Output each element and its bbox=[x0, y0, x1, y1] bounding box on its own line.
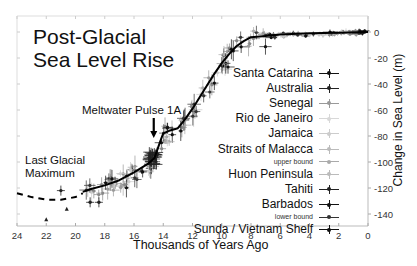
svg-text:22: 22 bbox=[41, 230, 52, 241]
y-axis-label: Change in Sea Level (m) bbox=[391, 54, 405, 187]
legend-marker-icon bbox=[317, 144, 341, 154]
svg-text:20: 20 bbox=[70, 230, 81, 241]
svg-text:0: 0 bbox=[374, 27, 379, 38]
legend-item: Tahiti bbox=[194, 181, 341, 196]
legend-item: Senegal bbox=[194, 95, 341, 110]
legend-marker-icon bbox=[317, 98, 341, 108]
legend-label: Huon Peninsula bbox=[228, 167, 313, 181]
legend-item: lower bound bbox=[194, 212, 341, 222]
legend-marker-icon bbox=[317, 184, 341, 194]
annotation-lgm-line1: Last Glacial bbox=[25, 154, 85, 167]
annotation-meltwater-pulse: Meltwater Pulse 1A bbox=[82, 104, 181, 117]
x-axis-label: Thousands of Years Ago bbox=[133, 238, 269, 252]
svg-text:0: 0 bbox=[365, 230, 370, 241]
legend-label: lower bound bbox=[275, 213, 313, 220]
legend-label: Rio de Janeiro bbox=[236, 111, 313, 125]
legend-label: Santa Catarina bbox=[233, 66, 313, 80]
legend-item: Huon Peninsula bbox=[194, 166, 341, 181]
legend-item: Straits of Malacca bbox=[194, 141, 341, 156]
legend-item: upper bound bbox=[194, 156, 341, 166]
svg-text:18: 18 bbox=[99, 230, 110, 241]
legend-label: Tahiti bbox=[285, 182, 313, 196]
annotation-lgm: Last Glacial Maximum bbox=[25, 154, 85, 180]
legend-marker-icon bbox=[317, 212, 341, 222]
svg-text:-20: -20 bbox=[374, 53, 388, 64]
legend-item: Australia bbox=[194, 80, 341, 95]
legend-marker-icon bbox=[317, 128, 341, 138]
legend-marker-icon bbox=[317, 169, 341, 179]
legend-label: Barbados bbox=[262, 197, 313, 211]
legend-item: Jamaica bbox=[194, 126, 341, 141]
legend-marker-icon bbox=[317, 199, 341, 209]
svg-text:24: 24 bbox=[12, 230, 23, 241]
legend-label: upper bound bbox=[274, 158, 313, 165]
svg-text:-140: -140 bbox=[374, 209, 393, 220]
legend-marker-icon bbox=[317, 68, 341, 78]
chart-title: Post-Glacial Sea Level Rise bbox=[33, 25, 174, 71]
svg-text:-60: -60 bbox=[374, 105, 388, 116]
legend-label: Senegal bbox=[269, 96, 313, 110]
svg-text:-80: -80 bbox=[374, 131, 388, 142]
legend-label: Sunda / Vietnam Shelf bbox=[194, 222, 313, 236]
legend-marker-icon bbox=[317, 224, 341, 234]
legend-item: Santa Catarina bbox=[194, 65, 341, 80]
legend-label: Straits of Malacca bbox=[218, 142, 313, 156]
meltwater-arrow-icon bbox=[150, 118, 157, 138]
legend-label: Jamaica bbox=[268, 126, 313, 140]
legend-marker-icon bbox=[317, 83, 341, 93]
legend-marker-icon bbox=[317, 156, 341, 166]
legend-item: Sunda / Vietnam Shelf bbox=[194, 222, 341, 237]
legend: Santa CatarinaAustraliaSenegalRio de Jan… bbox=[194, 65, 341, 237]
legend-item: Barbados bbox=[194, 197, 341, 212]
legend-marker-icon bbox=[317, 113, 341, 123]
legend-item: Rio de Janeiro bbox=[194, 111, 341, 126]
annotation-lgm-line2: Maximum bbox=[25, 167, 85, 180]
legend-label: Australia bbox=[266, 81, 313, 95]
svg-text:-40: -40 bbox=[374, 79, 388, 90]
